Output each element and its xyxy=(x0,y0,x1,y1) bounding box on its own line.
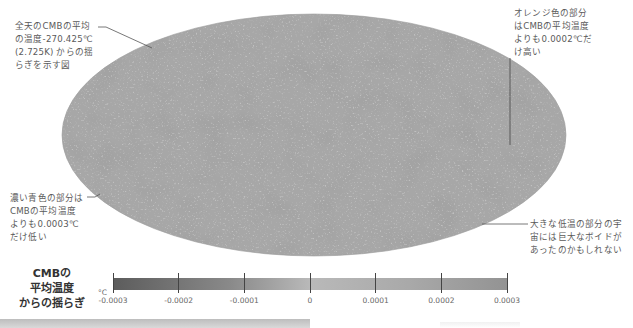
annotation-line: あったのかもしれない xyxy=(530,244,622,257)
colorbar-tick-label: -0.0003 xyxy=(99,296,128,305)
annotation-bottom-left: 濃い青色の部分は CMBの平均温度 よりも0.0003℃ だけ低い xyxy=(10,192,84,244)
colorbar-tick xyxy=(375,273,376,293)
colorbar-tick xyxy=(113,273,114,293)
bottom-fade-band xyxy=(440,322,520,328)
annotation-line: 濃い青色の部分は xyxy=(10,192,84,205)
annotation-line: CMBの平均温度 xyxy=(10,205,84,218)
annotation-line: よりも0.0002℃だ xyxy=(514,33,592,46)
annotation-line: よりも0.0003℃ xyxy=(10,218,84,231)
annotation-top-right: オレンジ色の部分 はCMBの平均温度 よりも0.0002℃だ け高い xyxy=(514,7,592,59)
annotation-line: 宙には巨大なボイドが xyxy=(530,231,622,244)
colorbar-tick xyxy=(178,273,179,293)
legend-title-line: 平均温度 xyxy=(2,281,102,296)
annotation-line: オレンジ色の部分 xyxy=(514,7,592,20)
annotation-line: だけ低い xyxy=(10,231,84,244)
leader-line-top-left xyxy=(98,27,152,48)
annotation-bottom-right: 大きな低温の部分の宇 宙には巨大なボイドが あったのかもしれない xyxy=(530,218,622,257)
legend-title: CMBの 平均温度 からの揺らぎ xyxy=(2,266,102,311)
sky-map-ellipse xyxy=(62,14,566,256)
colorbar-tick-label: 0.0001 xyxy=(363,296,389,305)
annotation-line: の温度-270.425℃ xyxy=(15,33,93,46)
annotation-line: らぎを示す図 xyxy=(15,59,93,72)
annotation-line: 大きな低温の部分の宇 xyxy=(530,218,622,231)
colorbar-tick-label: -0.0002 xyxy=(164,296,193,305)
colorbar-tick xyxy=(244,273,245,293)
colorbar-tick-label: -0.0001 xyxy=(230,296,259,305)
colorbar-tick xyxy=(441,273,442,293)
colorbar-tick xyxy=(507,273,508,293)
colorbar-tick-label: 0 xyxy=(308,296,313,305)
colorbar-tick-label: 0.0003 xyxy=(494,296,520,305)
annotation-line: (2.725K) からの揺 xyxy=(15,46,93,59)
colorbar-tick xyxy=(310,273,311,293)
legend-title-line: CMBの xyxy=(2,266,102,281)
annotation-top-left: 全天のCMBの平均 の温度-270.425℃ (2.725K) からの揺 らぎを… xyxy=(15,20,93,72)
colorbar-tick-label: 0.0002 xyxy=(428,296,454,305)
annotation-line: け高い xyxy=(514,46,592,59)
annotation-line: 全天のCMBの平均 xyxy=(15,20,93,33)
legend-title-line: からの揺らぎ xyxy=(2,296,102,311)
bottom-gray-band xyxy=(0,319,310,328)
annotation-line: はCMBの平均温度 xyxy=(514,20,592,33)
